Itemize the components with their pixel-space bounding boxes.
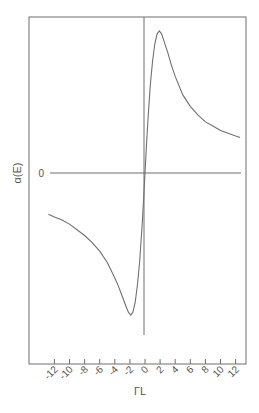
- x-tick-label: 4: [169, 363, 181, 375]
- x-axis-ticks: -12-10-8-6-4-2024681012: [42, 359, 242, 382]
- chart: -12-10-8-6-4-2024681012 0 α(E) ΓL: [0, 0, 259, 413]
- x-tick-label: -10: [57, 363, 75, 381]
- plot-frame: [29, 17, 246, 364]
- x-tick-label: -8: [76, 363, 90, 377]
- y-axis-label: α(E): [11, 162, 23, 183]
- x-tick-label: -2: [121, 363, 135, 377]
- y-tick-label-0: 0: [38, 168, 44, 179]
- x-tick-label: -4: [106, 363, 120, 377]
- x-tick-label: 10: [210, 363, 226, 379]
- x-tick-label: 6: [184, 363, 196, 375]
- x-axis-label: ΓL: [134, 385, 146, 397]
- x-tick-label: -6: [91, 363, 105, 377]
- x-tick-label: 0: [139, 363, 151, 375]
- x-tick-label: 8: [199, 363, 211, 375]
- x-tick-label: 2: [154, 363, 166, 375]
- x-tick-label: 12: [225, 363, 241, 379]
